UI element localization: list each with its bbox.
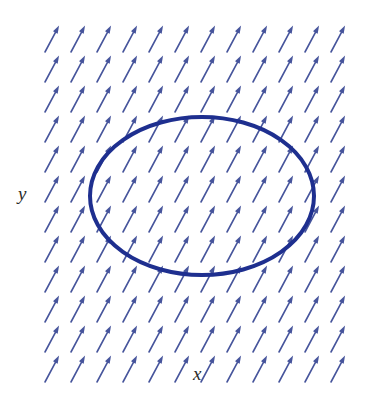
arrow-shaft [331,301,342,322]
arrow-shaft [253,151,264,172]
field-arrow [331,146,345,172]
arrow-head [183,236,189,244]
arrow-shaft [97,241,108,262]
arrow-head [339,356,345,364]
x-axis-label: x [193,364,201,383]
arrow-head [157,176,163,184]
arrow-head [105,206,111,214]
field-arrow [97,86,111,112]
field-arrow [71,206,85,232]
arrow-head [131,326,137,334]
arrow-shaft [305,361,316,382]
arrow-head [53,326,59,334]
field-arrow [123,266,137,292]
arrow-shaft [149,211,160,232]
arrow-head [79,26,85,34]
arrow-shaft [331,151,342,172]
field-arrow [123,86,137,112]
arrow-shaft [227,121,238,142]
arrow-shaft [175,331,186,352]
arrow-head [131,296,137,304]
arrow-head [105,296,111,304]
field-arrow [71,86,85,112]
field-arrow [175,26,189,52]
arrow-shaft [71,121,82,142]
field-arrow [201,356,215,382]
arrow-shaft [227,31,238,52]
arrow-shaft [71,301,82,322]
arrow-shaft [227,301,238,322]
arrow-head [339,296,345,304]
arrow-shaft [97,301,108,322]
field-arrow [149,86,163,112]
arrow-shaft [175,181,186,202]
arrow-shaft [71,181,82,202]
arrow-shaft [175,241,186,262]
arrow-head [313,296,319,304]
arrow-head [79,146,85,154]
field-arrow [227,176,241,202]
arrow-shaft [175,31,186,52]
arrow-shaft [71,61,82,82]
arrow-shaft [331,331,342,352]
arrow-head [131,26,137,34]
field-arrow [201,206,215,232]
arrow-head [209,176,215,184]
arrow-shaft [45,61,56,82]
field-arrow [71,176,85,202]
arrow-head [209,326,215,334]
arrow-head [313,266,319,274]
field-arrow [253,176,267,202]
field-arrow [279,86,293,112]
field-arrow [149,326,163,352]
field-arrow [227,26,241,52]
arrow-head [157,296,163,304]
field-arrow [123,56,137,82]
field-arrow [149,206,163,232]
arrow-shaft [331,271,342,292]
field-arrow [253,26,267,52]
arrow-head [339,206,345,214]
arrow-head [235,26,241,34]
field-arrow [201,116,215,142]
arrow-shaft [227,331,238,352]
arrow-head [313,56,319,64]
arrow-head [79,116,85,124]
field-arrow [71,236,85,262]
arrow-head [131,236,137,244]
arrow-head [157,26,163,34]
arrow-shaft [97,31,108,52]
arrow-shaft [305,241,316,262]
arrow-head [79,176,85,184]
field-arrow [253,296,267,322]
field-arrow [71,116,85,142]
arrow-shaft [45,151,56,172]
arrow-head [235,146,241,154]
field-arrow [97,326,111,352]
arrow-head [287,296,293,304]
arrow-head [313,356,319,364]
field-arrow [71,296,85,322]
arrow-head [261,146,267,154]
arrow-shaft [253,241,264,262]
arrow-head [183,296,189,304]
arrow-head [261,116,267,124]
field-arrow [253,56,267,82]
arrow-head [339,236,345,244]
field-arrow [201,56,215,82]
arrow-head [131,176,137,184]
arrow-head [339,26,345,34]
field-arrow [201,26,215,52]
arrow-shaft [279,301,290,322]
arrow-head [287,176,293,184]
arrow-head [79,86,85,94]
field-arrow [45,26,59,52]
arrow-shaft [305,121,316,142]
arrow-head [53,176,59,184]
field-arrow [45,266,59,292]
arrow-head [131,86,137,94]
arrow-shaft [123,211,134,232]
arrow-head [209,296,215,304]
arrow-shaft [71,271,82,292]
arrow-shaft [253,271,264,292]
